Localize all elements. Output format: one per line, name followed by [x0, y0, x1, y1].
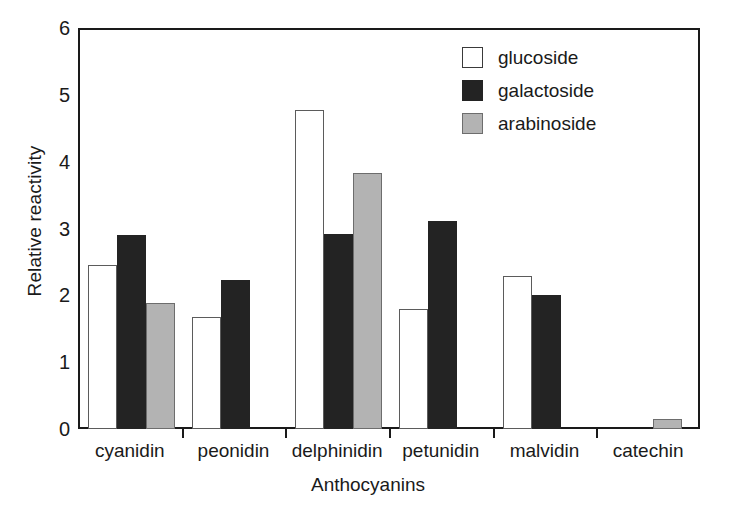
legend-label: glucoside — [498, 48, 578, 67]
y-tick-label: 4 — [40, 152, 70, 172]
bars-layer — [80, 30, 698, 429]
y-tick-label: 0 — [40, 419, 70, 439]
legend-item-galactoside: galactoside — [462, 75, 596, 105]
legend-swatch-galactoside — [462, 80, 483, 101]
legend-label: arabinoside — [498, 114, 596, 133]
x-tick-mark — [285, 429, 287, 438]
y-axis-tick-labels: 0123456 — [40, 0, 70, 528]
bar-cyanidin-arabinoside — [146, 303, 175, 429]
y-tick-label: 2 — [40, 285, 70, 305]
x-tick-mark — [596, 429, 598, 438]
legend-swatch-glucoside — [462, 47, 483, 68]
x-tick-mark — [182, 429, 184, 438]
bar-malvidin-glucoside — [503, 276, 532, 429]
bar-peonidin-galactoside — [221, 280, 250, 429]
bar-petunidin-galactoside — [428, 221, 457, 429]
x-tick-label-petunidin: petunidin — [402, 440, 479, 462]
bar-delphinidin-glucoside — [295, 110, 324, 429]
bar-peonidin-glucoside — [192, 317, 221, 429]
bar-cyanidin-glucoside — [88, 265, 117, 429]
bar-petunidin-glucoside — [399, 309, 428, 429]
bar-delphinidin-galactoside — [324, 234, 353, 429]
chart-legend: glucosidegalactosidearabinoside — [462, 42, 596, 141]
legend-item-glucoside: glucoside — [462, 42, 596, 72]
x-tick-label-delphinidin: delphinidin — [292, 440, 383, 462]
legend-label: galactoside — [498, 81, 594, 100]
x-tick-mark — [493, 429, 495, 438]
bar-catechin-arabinoside — [653, 419, 682, 429]
bar-cyanidin-galactoside — [117, 235, 146, 429]
x-axis-title: Anthocyanins — [0, 474, 736, 496]
y-tick-label: 1 — [40, 352, 70, 372]
y-tick-label: 3 — [40, 219, 70, 239]
x-tick-label-peonidin: peonidin — [198, 440, 270, 462]
bar-chart-figure: Relative reactivity 0123456 cyanidinpeon… — [0, 0, 736, 528]
bar-delphinidin-arabinoside — [353, 173, 382, 429]
x-tick-label-cyanidin: cyanidin — [95, 440, 165, 462]
bar-malvidin-galactoside — [532, 295, 561, 429]
legend-swatch-arabinoside — [462, 113, 483, 134]
legend-item-arabinoside: arabinoside — [462, 108, 596, 138]
x-tick-mark — [389, 429, 391, 438]
x-tick-label-catechin: catechin — [613, 440, 684, 462]
x-tick-label-malvidin: malvidin — [510, 440, 580, 462]
y-tick-label: 6 — [40, 18, 70, 38]
y-tick-label: 5 — [40, 85, 70, 105]
